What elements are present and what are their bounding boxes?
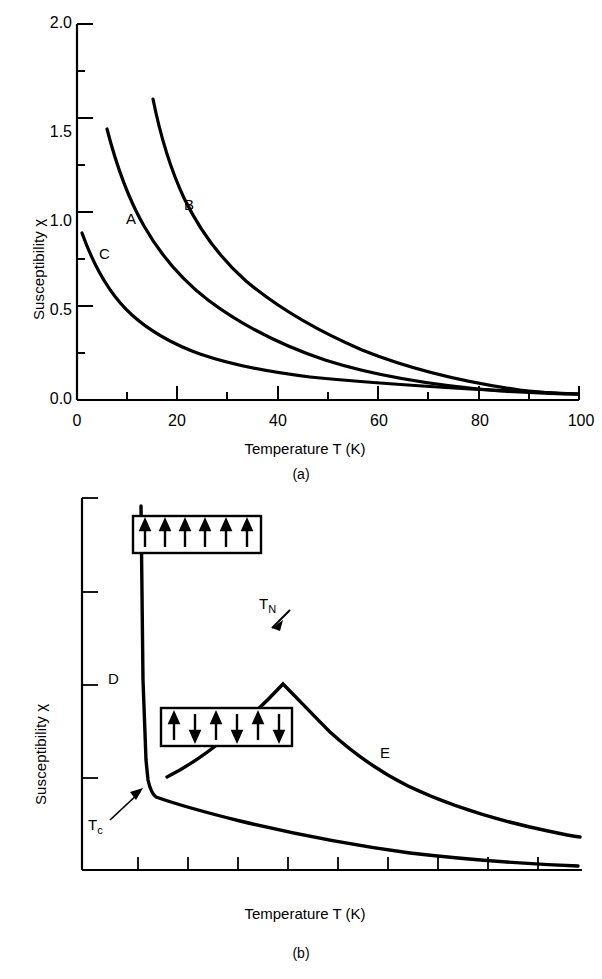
panel-b-ordered-magnet-curves: Susceptibility χ D E TN Tc Temperature T… [0, 480, 602, 979]
antiferromagnetic-spin-box [161, 708, 292, 746]
curie-temperature-arrow [110, 788, 143, 820]
panel-b-plot-area [0, 480, 602, 979]
panel-a-paramagnetic-curves: Susceptibility χ 0.0 0.5 1.0 1.5 2.0 0 2… [0, 0, 602, 490]
panel-a-curve-b [153, 99, 578, 394]
panel-b-curve-d [141, 506, 578, 866]
panel-a-y-ticks [77, 24, 93, 400]
ferromagnetic-spin-box [133, 516, 261, 553]
neel-temperature-arrow [272, 610, 290, 631]
panel-b-y-ticks [82, 498, 98, 778]
panel-a-plot-area [0, 0, 602, 490]
figure-container: Susceptibility χ 0.0 0.5 1.0 1.5 2.0 0 2… [0, 0, 602, 979]
panel-a-curve-c [82, 233, 578, 394]
panel-a-curve-a [107, 129, 578, 394]
